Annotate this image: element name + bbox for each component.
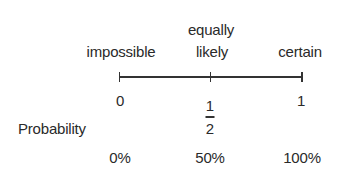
tick-zero [119,72,121,82]
label-likely: likely [196,44,228,60]
percent-zero: 0% [109,150,130,166]
fraction-numerator: 1 [206,98,214,114]
value-zero: 0 [116,93,124,109]
percent-hundred: 100% [283,150,321,166]
label-equally: equally [188,22,234,38]
value-one: 1 [297,93,305,109]
fraction-denominator: 2 [206,121,214,137]
probability-row-label: Probability [18,121,86,137]
fraction-bar [206,116,215,118]
label-impossible: impossible [87,44,156,60]
label-certain: certain [278,44,322,60]
value-one-half: 1 2 [206,98,215,137]
percent-fifty: 50% [195,150,224,166]
tick-half [210,72,212,82]
tick-one [301,72,303,82]
